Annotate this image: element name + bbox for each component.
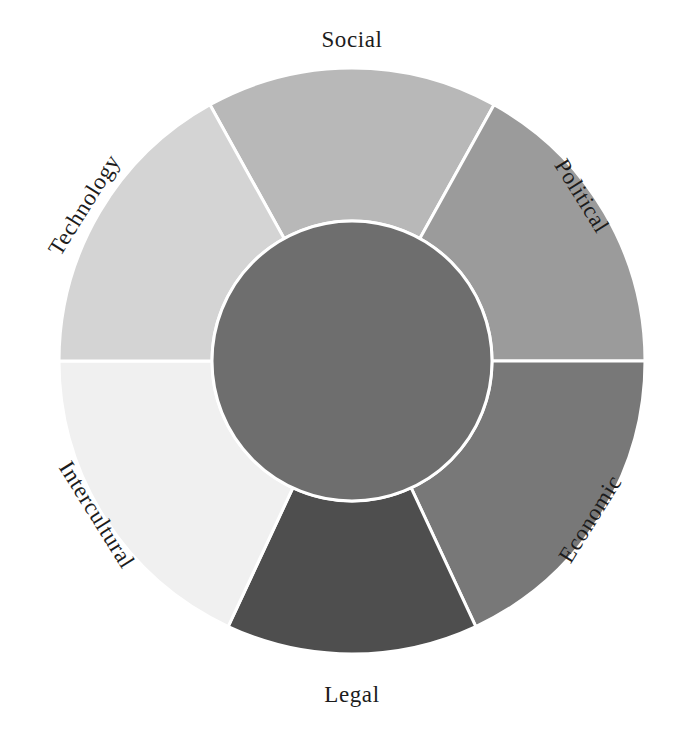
label-legal: Legal [324,682,379,707]
pestle-wheel-diagram: SocialPoliticalEconomicLegalIntercultura… [0,0,691,736]
hub-circle[interactable] [212,221,492,501]
label-social: Social [321,27,382,52]
wheel-svg: SocialPoliticalEconomicLegalIntercultura… [0,0,691,736]
